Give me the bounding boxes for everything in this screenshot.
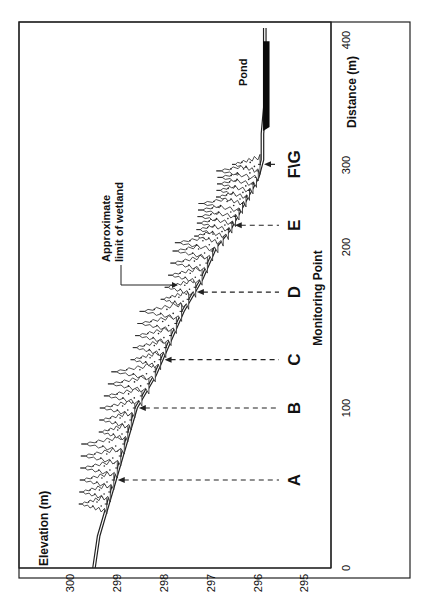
pond-fill [263, 41, 270, 131]
monitoring-point-label: B [285, 402, 304, 414]
svg-text:200: 200 [340, 238, 352, 256]
monitoring-point-a: A [118, 474, 304, 486]
elevation-axis-title: Elevation (m) [37, 491, 51, 566]
svg-text:299: 299 [111, 574, 123, 592]
distance-axis-title: Distance (m) [345, 56, 359, 128]
svg-text:400: 400 [340, 31, 352, 49]
wetland-limit-annotation: Approximate limit of wetland [100, 182, 178, 288]
pond-label: Pond [237, 59, 249, 87]
elevation-tick-labels: 300 299 298 297 296 295 [64, 574, 310, 592]
monitoring-point-b: B [139, 402, 304, 414]
monitoring-point-label: C [285, 354, 304, 366]
monitoring-point-label: A [285, 474, 304, 486]
monitoring-points: ABCDEF\G [118, 150, 304, 486]
svg-text:300: 300 [64, 574, 76, 592]
monitoring-point-d: D [197, 286, 304, 298]
elevation-profile-figure: ABCDEF\G Approximate limit of wetland Po… [0, 0, 439, 592]
monitoring-point-label: F\G [285, 150, 304, 178]
monitoring-point-label: D [285, 286, 304, 298]
monitoring-point-label: E [285, 220, 304, 231]
wetland-label-line2: limit of wetland [113, 182, 125, 262]
wetland-label-line1: Approximate [100, 195, 112, 262]
svg-text:300: 300 [340, 156, 352, 174]
svg-text:298: 298 [158, 574, 170, 592]
svg-text:297: 297 [205, 574, 217, 592]
monitoring-point-title: Monitoring Point [311, 250, 325, 345]
monitoring-point-f-g: F\G [264, 150, 304, 178]
svg-text:295: 295 [298, 574, 310, 592]
svg-text:100: 100 [340, 399, 352, 417]
monitoring-point-e: E [235, 220, 304, 231]
monitoring-point-c: C [165, 354, 304, 366]
pond-shape [263, 41, 270, 131]
svg-text:0: 0 [340, 565, 352, 571]
tree-icon [104, 386, 143, 406]
svg-text:296: 296 [252, 574, 264, 592]
